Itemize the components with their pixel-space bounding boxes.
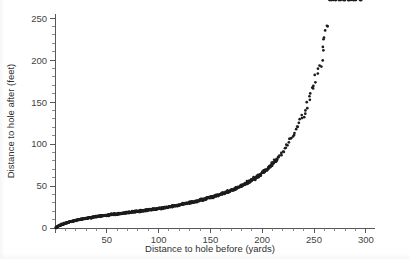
data-point bbox=[271, 164, 274, 167]
data-point-group bbox=[54, 0, 362, 229]
data-point bbox=[297, 122, 300, 125]
data-point bbox=[284, 146, 287, 149]
data-point bbox=[288, 141, 291, 144]
x-axis-tick-label: 50 bbox=[102, 234, 113, 245]
data-point bbox=[303, 116, 306, 119]
data-point bbox=[305, 101, 308, 104]
data-point bbox=[309, 98, 312, 101]
data-point bbox=[321, 59, 324, 62]
y-axis-tick-label: 100 bbox=[31, 138, 47, 149]
y-axis-tick-label: 0 bbox=[42, 222, 47, 233]
y-axis-tick-labels: 050100150200250 bbox=[31, 13, 47, 234]
data-point bbox=[304, 112, 307, 115]
x-axis-title: Distance to hole before (yards) bbox=[145, 243, 275, 254]
data-point bbox=[322, 49, 325, 52]
data-point bbox=[282, 151, 285, 154]
data-point bbox=[295, 128, 298, 131]
data-point bbox=[314, 81, 317, 84]
data-point bbox=[313, 74, 316, 77]
data-point bbox=[354, 0, 357, 1]
data-point bbox=[324, 29, 327, 32]
data-point bbox=[322, 46, 325, 49]
y-axis-major-ticks bbox=[50, 18, 55, 228]
scatter-plot: 050100150200250 50100150200250300 Distan… bbox=[0, 0, 410, 259]
data-point bbox=[312, 85, 315, 88]
y-axis-tick-label: 150 bbox=[31, 97, 47, 108]
data-point bbox=[309, 92, 312, 95]
data-point bbox=[298, 118, 301, 121]
data-point bbox=[296, 125, 299, 128]
y-axis-title: Distance to hole after (feet) bbox=[5, 64, 16, 179]
data-point bbox=[317, 67, 320, 70]
y-axis-tick-label: 250 bbox=[31, 13, 47, 24]
data-point bbox=[276, 158, 279, 161]
data-point bbox=[306, 107, 309, 110]
data-point bbox=[316, 72, 319, 75]
data-point bbox=[304, 109, 307, 112]
data-point bbox=[323, 36, 326, 39]
data-point bbox=[308, 95, 311, 98]
x-axis-tick-label: 300 bbox=[358, 234, 374, 245]
data-point bbox=[293, 132, 296, 135]
data-point bbox=[326, 25, 329, 28]
y-axis-tick-label: 200 bbox=[31, 55, 47, 66]
x-axis-major-ticks bbox=[107, 228, 366, 233]
data-point bbox=[312, 87, 315, 90]
data-point bbox=[286, 144, 289, 147]
figure-container: 050100150200250 50100150200250300 Distan… bbox=[0, 0, 410, 259]
plot-axes bbox=[55, 14, 375, 233]
y-axis-tick-label: 50 bbox=[36, 180, 47, 191]
data-point bbox=[300, 114, 303, 117]
x-axis-tick-label: 250 bbox=[306, 234, 322, 245]
data-point bbox=[320, 65, 323, 68]
